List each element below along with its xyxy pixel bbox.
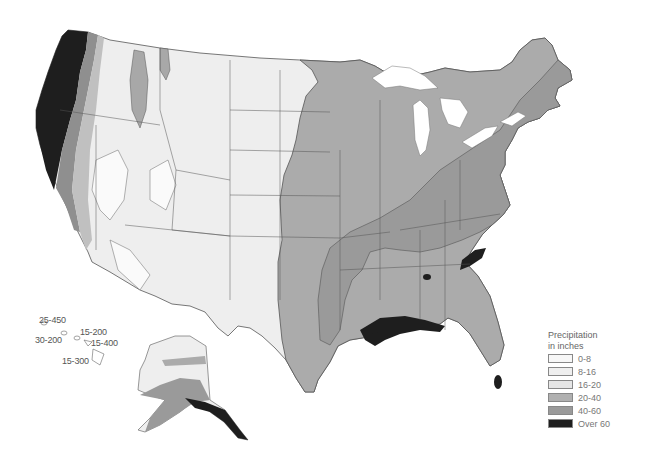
legend-item: 20-40 (548, 391, 648, 404)
legend-item: 8-16 (548, 365, 648, 378)
legend-label: 40-60 (578, 406, 601, 416)
legend-label: 0-8 (578, 354, 591, 364)
legend-swatch-40-60 (548, 406, 573, 415)
legend-label: 16-20 (578, 380, 601, 390)
hawaii-label-big-island: 15-300 (62, 356, 89, 366)
legend-item: 16-20 (548, 378, 648, 391)
legend-label: 8-16 (578, 367, 596, 377)
legend: Precipitation in inches 0-8 8-16 16-20 2… (548, 330, 648, 430)
region-over-60-alabama (423, 274, 431, 280)
legend-swatch-over-60 (548, 419, 573, 428)
legend-title-line1: Precipitation (548, 330, 648, 341)
legend-swatch-8-16 (548, 367, 573, 376)
legend-swatch-0-8 (548, 354, 573, 363)
hawaii-label-maui: 15-400 (91, 338, 118, 348)
legend-item: Over 60 (548, 417, 648, 430)
legend-label: 20-40 (578, 393, 601, 403)
legend-item: 40-60 (548, 404, 648, 417)
legend-swatch-20-40 (548, 393, 573, 402)
region-over-60-florida (494, 375, 502, 389)
legend-item: 0-8 (548, 352, 648, 365)
legend-swatch-16-20 (548, 380, 573, 389)
hawaii-label-kauai: 25-450 (39, 315, 66, 325)
legend-label: Over 60 (578, 419, 610, 429)
hawaii-label-molokai: 15-200 (80, 327, 107, 337)
legend-title-line2: in inches (548, 341, 648, 352)
hawaii-label-oahu: 30-200 (35, 335, 62, 345)
